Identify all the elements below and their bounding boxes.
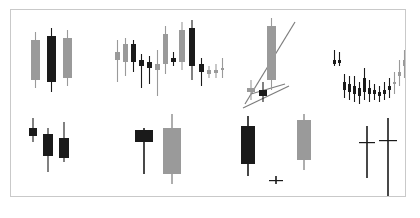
candle-body — [179, 30, 185, 62]
candle-body — [139, 60, 144, 66]
candlestick-svg — [227, 110, 323, 196]
candle-body — [297, 120, 311, 160]
candle-body — [379, 140, 397, 141]
candle-body — [363, 78, 366, 92]
candle-body — [393, 82, 396, 84]
candlestick-svg — [19, 22, 111, 102]
candle — [115, 40, 120, 82]
candle — [43, 128, 53, 172]
candle — [123, 38, 128, 76]
candle — [207, 66, 211, 78]
candle — [189, 20, 195, 80]
candle-body — [199, 64, 204, 72]
candle — [359, 126, 375, 178]
candle — [59, 122, 69, 162]
candle — [163, 26, 168, 74]
candle-body — [163, 128, 181, 174]
candle-body — [214, 70, 218, 73]
candle — [333, 50, 336, 66]
candle-body — [47, 36, 56, 82]
candle-body — [29, 128, 37, 136]
candle — [247, 80, 255, 100]
candle — [403, 50, 406, 78]
pattern-three-black-crows — [19, 110, 99, 190]
pattern-rounding-bottom-rally — [329, 16, 406, 112]
candle — [47, 28, 56, 92]
candle-body — [123, 44, 128, 62]
candle-body — [398, 72, 401, 76]
candle — [388, 78, 391, 98]
candle-body — [348, 84, 351, 92]
candle-body — [147, 62, 152, 68]
candle-body — [131, 44, 136, 62]
candle — [358, 82, 361, 104]
candlestick-svg — [233, 16, 327, 114]
candlestick-svg — [329, 16, 406, 112]
chart-panel — [10, 9, 406, 197]
pattern-mixed-sequence — [111, 18, 229, 106]
candle — [179, 22, 185, 70]
candle-body — [241, 126, 255, 164]
candle-body — [378, 92, 381, 96]
candle — [297, 114, 311, 170]
candle-body — [207, 70, 211, 74]
candle — [63, 30, 72, 86]
candle — [353, 76, 356, 102]
candle — [267, 18, 276, 90]
candle-body — [338, 60, 341, 63]
candle — [147, 56, 152, 84]
candle-body — [383, 90, 386, 94]
candle — [214, 64, 218, 78]
candle-body — [247, 88, 255, 92]
pattern-morning-star — [227, 110, 323, 196]
candle — [378, 86, 381, 102]
candle-body — [403, 60, 406, 66]
candle-body — [171, 58, 176, 62]
candle — [135, 128, 153, 174]
candle-body — [135, 130, 153, 142]
candle-body — [155, 64, 160, 70]
candlestick-pattern-stage — [11, 10, 405, 196]
candle — [383, 82, 386, 100]
candle — [241, 116, 255, 176]
candle-body — [388, 86, 391, 90]
candle-body — [343, 82, 346, 90]
candle-body — [353, 86, 356, 94]
candle-body — [373, 90, 376, 94]
candle — [338, 52, 341, 66]
candle-body — [358, 88, 361, 96]
candle — [31, 32, 40, 88]
candle — [163, 114, 181, 184]
candle — [398, 60, 401, 86]
candle — [269, 176, 283, 184]
candle — [393, 72, 396, 94]
candle — [139, 54, 144, 88]
candle — [379, 118, 397, 196]
candle — [363, 68, 366, 100]
pattern-three-wide-candles — [19, 22, 111, 102]
candle — [171, 52, 176, 66]
candle-body — [115, 52, 120, 60]
candlestick-svg — [19, 110, 99, 190]
candle-body — [267, 26, 276, 80]
candle-body — [359, 142, 375, 143]
candle-body — [368, 88, 371, 94]
candle-body — [31, 40, 40, 80]
candlestick-svg — [111, 18, 229, 106]
candle-body — [63, 38, 72, 78]
candle — [348, 76, 351, 100]
candle-body — [59, 138, 69, 158]
candle — [221, 58, 224, 78]
candle-body — [269, 180, 283, 181]
candle-body — [43, 134, 53, 156]
candle — [368, 80, 371, 102]
candle — [343, 74, 346, 98]
candle — [155, 50, 160, 96]
candlestick-svg — [121, 110, 211, 192]
candle — [131, 40, 136, 72]
candle — [373, 84, 376, 100]
candle-body — [163, 34, 168, 64]
pattern-bullish-engulfing — [121, 110, 211, 192]
pattern-double-dragonfly-doji — [341, 110, 406, 197]
candle — [29, 118, 37, 142]
